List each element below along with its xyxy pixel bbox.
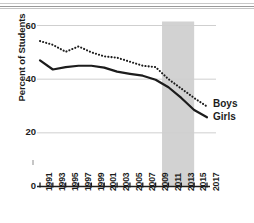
x-tick-label-1995: 1995 (70, 172, 80, 190)
y-tick-label-20: 20 (14, 126, 36, 137)
x-tick-label-2001: 2001 (108, 172, 118, 190)
y-tick-label-40: 40 (14, 73, 36, 84)
x-tick-label-1997: 1997 (83, 172, 93, 190)
x-tick-label-1993: 1993 (57, 172, 67, 190)
x-tick-label-2005: 2005 (134, 172, 144, 190)
x-tick-label-2015: 2015 (198, 172, 208, 190)
x-tick-label-2007: 2007 (147, 172, 157, 190)
y-tick-label-60: 60 (14, 20, 36, 31)
x-tick-label-1999: 1999 (96, 172, 106, 190)
chart-figure: Percent of Students 60 40 20 0 199119931… (0, 0, 254, 223)
y-axis-title: Percent of Students (16, 0, 27, 120)
y-tick-label-0: 0 (14, 180, 36, 191)
x-tick-label-2013: 2013 (186, 172, 196, 190)
x-tick-label-2009: 2009 (160, 172, 170, 190)
series-label-girls: Girls (213, 111, 236, 122)
x-tick-label-2011: 2011 (173, 173, 183, 191)
x-tick-label-1991: 1991 (44, 172, 54, 190)
series-label-boys: Boys (213, 98, 237, 109)
x-tick-label-2017: 2017 (211, 172, 221, 190)
x-tick-label-2003: 2003 (121, 172, 131, 190)
